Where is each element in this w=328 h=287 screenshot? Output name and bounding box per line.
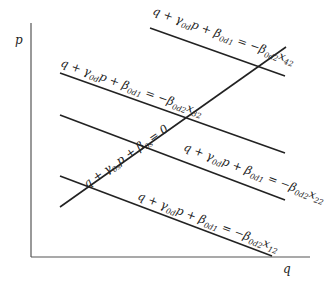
svg-text:q + γ0sp + β0s= 0: q + γ0sp + β0s= 0 — [81, 122, 172, 192]
label-supply: q + γ0sp + β0s= 0 — [81, 122, 172, 192]
label-demand-x22: q + γ0dp + β0d1 = −β0d2x22 — [181, 140, 327, 208]
supply-demand-diagram: p q q + γ0dp + β0d1 = −β0d2x42 q + γ0dp … — [0, 0, 328, 287]
svg-text:q + γ0dp + β0d1 = −β0d2x22: q + γ0dp + β0d1 = −β0d2x22 — [181, 140, 327, 208]
y-axis-label: p — [15, 33, 23, 47]
svg-text:q + γ0dp + β0d1 = −β0d2x32: q + γ0dp + β0d1 = −β0d2x32 — [58, 56, 205, 121]
demand-line-x32 — [60, 73, 285, 153]
label-demand-x32: q + γ0dp + β0d1 = −β0d2x32 — [58, 56, 205, 121]
label-demand-x12: q + γ0dp + β0d1 = −β0d2x12 — [135, 189, 281, 257]
svg-text:q + γ0dp + β0d1 = −β0d2x12: q + γ0dp + β0d1 = −β0d2x12 — [135, 189, 281, 257]
diagram-svg: p q q + γ0dp + β0d1 = −β0d2x42 q + γ0dp … — [0, 0, 328, 287]
x-axis-label: q — [283, 262, 291, 276]
